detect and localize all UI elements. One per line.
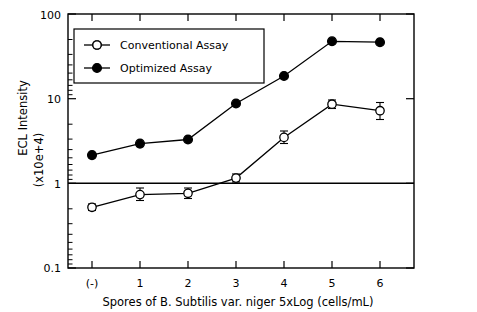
- y-tick-label-10: 10: [47, 93, 61, 106]
- y-tick-label-0.1: 0.1: [44, 262, 62, 275]
- x-tick-label-6: 6: [377, 277, 384, 290]
- legend-marker-open-circle-icon: [93, 41, 101, 49]
- chart-container: 100 10 1 0.1 (-) 1 2 3 4 5 6 ECL Intensi…: [0, 0, 477, 312]
- y-axis-title-units: (x10e+4): [32, 133, 46, 187]
- y-tick-label-100: 100: [40, 9, 61, 22]
- x-axis-title: Spores of B. Subtilis var. niger 5xLog (…: [102, 295, 373, 309]
- data-point: [232, 99, 241, 108]
- data-point: [280, 133, 288, 141]
- data-point: [280, 72, 289, 81]
- data-point: [184, 135, 193, 144]
- data-point: [136, 139, 145, 148]
- data-point: [376, 107, 384, 115]
- x-tick-label-5: 5: [329, 277, 336, 290]
- x-tick-label-3: 3: [233, 277, 240, 290]
- x-tick-label-0: (-): [86, 277, 99, 290]
- data-point: [88, 151, 97, 160]
- data-point: [184, 189, 192, 197]
- x-tick-label-1: 1: [137, 277, 144, 290]
- y-tick-label-1: 1: [54, 178, 61, 191]
- legend-label-conventional: Conventional Assay: [120, 39, 229, 52]
- data-point: [136, 190, 144, 198]
- data-point: [376, 38, 385, 47]
- error-bars-conventional: [88, 100, 384, 211]
- legend: Conventional Assay Optimized Assay: [74, 29, 264, 83]
- data-point: [328, 100, 336, 108]
- data-point: [232, 174, 240, 182]
- y-axis-title-main: ECL Intensity: [16, 80, 30, 156]
- ecl-intensity-line-chart: 100 10 1 0.1 (-) 1 2 3 4 5 6 ECL Intensi…: [0, 0, 477, 312]
- data-point: [328, 37, 337, 46]
- data-point: [88, 203, 96, 211]
- series-conventional-assay: [88, 100, 384, 212]
- x-tick-label-4: 4: [281, 277, 288, 290]
- legend-marker-filled-circle-icon: [93, 64, 102, 73]
- x-tick-label-2: 2: [185, 277, 192, 290]
- legend-label-optimized: Optimized Assay: [120, 62, 213, 75]
